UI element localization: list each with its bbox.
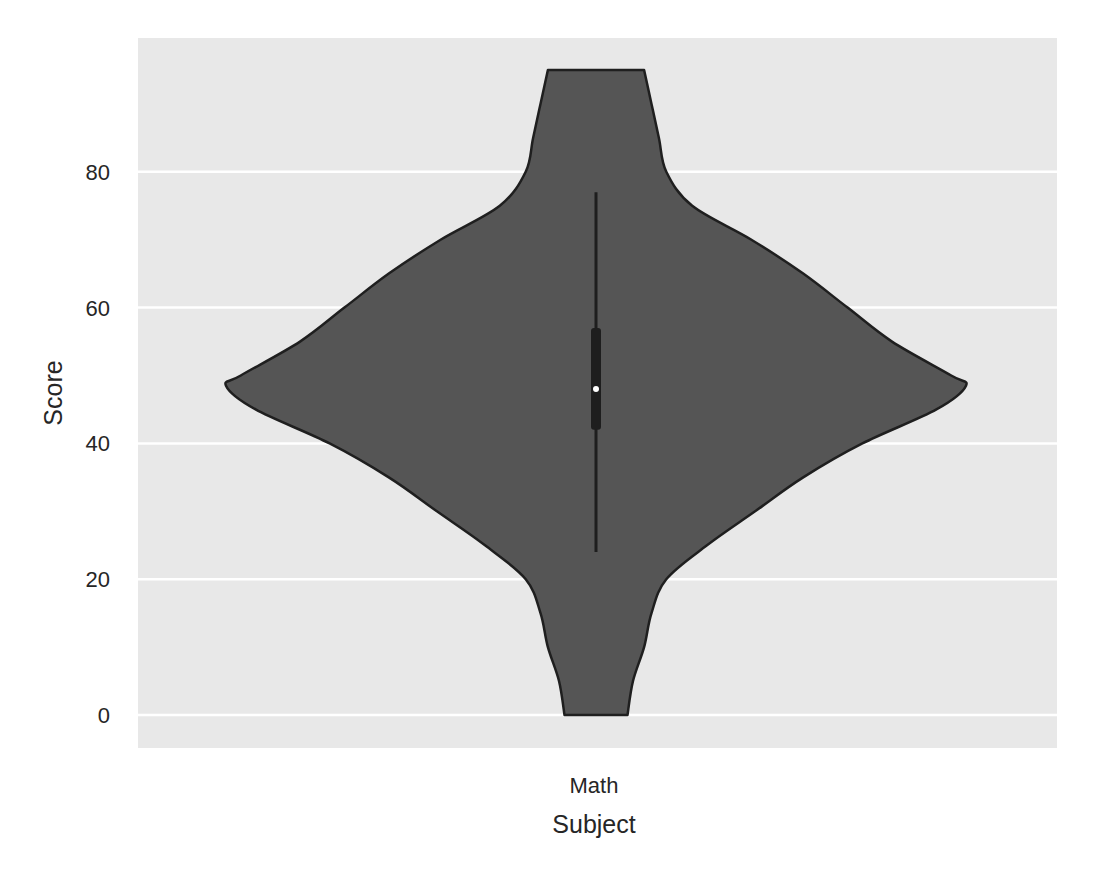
y-tick-label: 60 — [86, 296, 110, 321]
x-tick-label: Math — [570, 773, 619, 798]
y-tick-label: 0 — [98, 703, 110, 728]
y-axis-ticks: 020406080 — [86, 160, 110, 728]
y-tick-label: 80 — [86, 160, 110, 185]
iqr-box — [591, 328, 601, 430]
y-tick-label: 40 — [86, 431, 110, 456]
x-axis-label: Subject — [552, 810, 635, 838]
x-axis-ticks: Math — [570, 773, 619, 798]
y-axis-label: Score — [39, 360, 67, 425]
violin-chart: 020406080 Math Subject Score — [0, 0, 1103, 883]
y-tick-label: 20 — [86, 567, 110, 592]
median-marker — [593, 386, 599, 392]
